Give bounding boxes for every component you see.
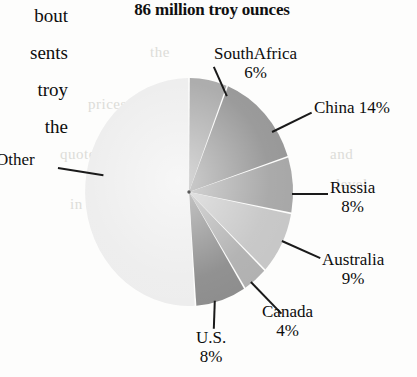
- pie-label-us-name: U.S.: [196, 328, 226, 347]
- pie-label-australia-name: Australia: [322, 250, 384, 269]
- body-text-line: troy: [37, 80, 68, 100]
- pie-label-australia: Australia 9%: [322, 250, 384, 288]
- pie-label-southafrica: SouthAfrica 6%: [214, 44, 297, 82]
- pie-label-other-name: Other: [0, 150, 35, 169]
- pie-label-russia: Russia 8%: [330, 178, 375, 216]
- pie-label-china-name: China 14%: [314, 98, 390, 117]
- pie-label-russia-name: Russia: [330, 178, 375, 197]
- background-ghost-text: the: [150, 44, 170, 61]
- pie-label-us-pct: 8%: [196, 347, 226, 366]
- pie-label-australia-pct: 9%: [322, 269, 384, 288]
- pie-chart: [84, 78, 296, 308]
- pie-label-canada-name: Canada: [262, 302, 313, 321]
- background-ghost-text: and: [330, 146, 353, 163]
- pie-label-china: China 14%: [314, 98, 390, 117]
- pie-label-southafrica-pct: 6%: [214, 63, 297, 82]
- body-text-line: sents: [30, 43, 68, 63]
- leader-line-russia: [292, 193, 328, 195]
- pie-center-dot: [187, 190, 190, 193]
- pie-label-canada-pct: 4%: [262, 321, 313, 340]
- pie-label-canada: Canada 4%: [262, 302, 313, 340]
- scanned-page: the prices quoted in and level bout sent…: [0, 0, 417, 377]
- pie-label-southafrica-name: SouthAfrica: [214, 44, 297, 63]
- background-ghost-text: in: [70, 196, 83, 213]
- body-text-column: bout sents troy the: [0, 6, 68, 136]
- body-text-line: bout: [34, 6, 68, 26]
- leader-line-us: [213, 301, 216, 329]
- chart-title: 86 million troy ounces: [100, 0, 324, 20]
- pie-label-us: U.S. 8%: [196, 328, 226, 366]
- body-text-line: the: [45, 117, 68, 137]
- pie-label-other: Other: [0, 150, 35, 169]
- pie-label-russia-pct: 8%: [330, 197, 375, 216]
- pie-chart-svg: [84, 78, 296, 308]
